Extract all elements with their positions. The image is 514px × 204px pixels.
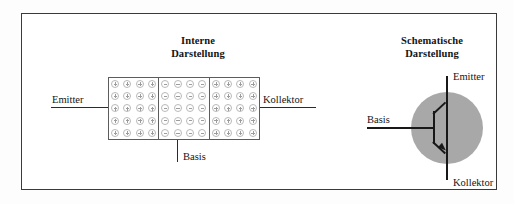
carrier-row — [210, 102, 259, 114]
carrier-plus-icon — [123, 80, 131, 88]
carrier-plus-icon — [148, 80, 156, 88]
internal-panel-title: Interne Darstellung — [118, 34, 278, 60]
carrier-row — [109, 127, 158, 139]
schematic-emitter-lead — [446, 76, 448, 128]
carrier-row — [109, 102, 158, 114]
carrier-plus-icon — [111, 117, 119, 125]
carrier-plus-icon — [236, 92, 244, 100]
carrier-minus-icon — [186, 104, 194, 112]
carrier-minus-icon — [161, 92, 169, 100]
transistor-figure: Interne Darstellung — [0, 0, 514, 204]
carrier-row — [109, 90, 158, 102]
carrier-row — [159, 102, 208, 114]
region-kollektor-p — [209, 78, 259, 139]
carrier-plus-icon — [236, 104, 244, 112]
carrier-minus-icon — [174, 117, 182, 125]
carrier-plus-icon — [236, 80, 244, 88]
carrier-row — [159, 115, 208, 127]
carrier-plus-icon — [136, 92, 144, 100]
carrier-plus-icon — [136, 117, 144, 125]
carrier-minus-icon — [198, 104, 206, 112]
carrier-plus-icon — [136, 129, 144, 137]
schematic-kollektor-lead — [446, 128, 448, 180]
carrier-row — [210, 78, 259, 90]
carrier-plus-icon — [123, 129, 131, 137]
carrier-minus-icon — [174, 104, 182, 112]
internal-kollektor-lead — [260, 107, 316, 108]
carrier-row — [210, 127, 259, 139]
doping-box — [108, 77, 260, 140]
region-emitter-p — [109, 78, 158, 139]
schematic-basis-lead — [367, 127, 434, 129]
carrier-minus-icon — [186, 92, 194, 100]
carrier-minus-icon — [198, 80, 206, 88]
carrier-minus-icon — [186, 117, 194, 125]
carrier-minus-icon — [161, 117, 169, 125]
carrier-plus-icon — [249, 92, 257, 100]
carrier-plus-icon — [212, 80, 220, 88]
carrier-plus-icon — [224, 80, 232, 88]
carrier-plus-icon — [224, 92, 232, 100]
internal-emitter-label: Emitter — [52, 94, 84, 106]
carrier-plus-icon — [249, 117, 257, 125]
carrier-minus-icon — [174, 129, 182, 137]
carrier-plus-icon — [136, 80, 144, 88]
schematic-emitter-label: Emitter — [453, 71, 485, 82]
internal-kollektor-label: Kollektor — [263, 94, 303, 106]
carrier-minus-icon — [161, 80, 169, 88]
schematic-panel-title: Schematische Darstellung — [352, 34, 512, 60]
carrier-plus-icon — [148, 92, 156, 100]
carrier-plus-icon — [148, 117, 156, 125]
carrier-plus-icon — [249, 129, 257, 137]
schematic-basis-label: Basis — [367, 114, 390, 125]
carrier-plus-icon — [111, 104, 119, 112]
carrier-plus-icon — [224, 129, 232, 137]
carrier-minus-icon — [198, 92, 206, 100]
carrier-row — [159, 90, 208, 102]
schematic-kollektor-label: Kollektor — [453, 177, 493, 188]
carrier-plus-icon — [136, 104, 144, 112]
carrier-plus-icon — [123, 92, 131, 100]
carrier-minus-icon — [198, 117, 206, 125]
carrier-plus-icon — [148, 104, 156, 112]
carrier-minus-icon — [161, 129, 169, 137]
carrier-row — [109, 78, 158, 90]
carrier-minus-icon — [161, 104, 169, 112]
carrier-minus-icon — [198, 129, 206, 137]
carrier-plus-icon — [111, 92, 119, 100]
figure-frame: Interne Darstellung — [21, 13, 497, 190]
carrier-minus-icon — [186, 129, 194, 137]
carrier-plus-icon — [224, 117, 232, 125]
schematic-base-bar — [433, 111, 435, 144]
carrier-plus-icon — [224, 104, 232, 112]
carrier-plus-icon — [236, 117, 244, 125]
carrier-plus-icon — [249, 80, 257, 88]
carrier-plus-icon — [212, 117, 220, 125]
carrier-plus-icon — [148, 129, 156, 137]
carrier-plus-icon — [212, 129, 220, 137]
carrier-plus-icon — [212, 92, 220, 100]
internal-basis-label: Basis — [183, 151, 206, 163]
carrier-plus-icon — [249, 104, 257, 112]
carrier-minus-icon — [174, 80, 182, 88]
carrier-plus-icon — [111, 80, 119, 88]
carrier-plus-icon — [212, 104, 220, 112]
carrier-minus-icon — [186, 80, 194, 88]
carrier-minus-icon — [174, 92, 182, 100]
carrier-plus-icon — [123, 104, 131, 112]
carrier-row — [210, 115, 259, 127]
carrier-row — [159, 78, 208, 90]
region-basis-n — [158, 78, 208, 139]
carrier-plus-icon — [111, 129, 119, 137]
carrier-row — [210, 90, 259, 102]
internal-emitter-lead — [51, 107, 108, 108]
carrier-plus-icon — [236, 129, 244, 137]
carrier-row — [159, 127, 208, 139]
carrier-row — [109, 115, 158, 127]
internal-basis-lead — [177, 140, 178, 162]
carrier-plus-icon — [123, 117, 131, 125]
